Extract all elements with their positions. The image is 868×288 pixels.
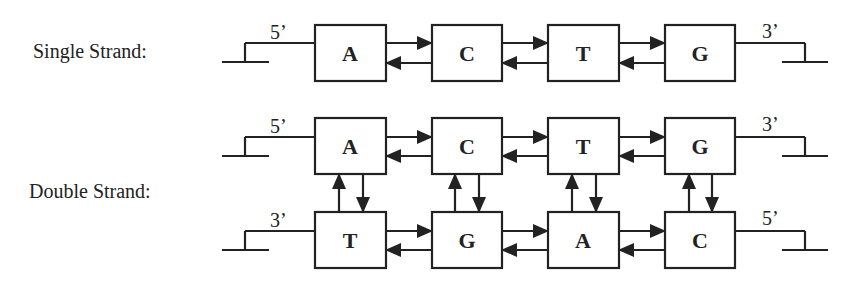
base-box-t: T bbox=[548, 25, 619, 81]
three-prime-label: 3’ bbox=[762, 20, 779, 42]
svg-text:C: C bbox=[459, 134, 475, 159]
base-box-a: A bbox=[315, 25, 386, 81]
svg-text:T: T bbox=[576, 41, 591, 66]
base-box-c: C bbox=[432, 25, 502, 81]
svg-text:T: T bbox=[343, 228, 358, 253]
five-prime-end-bracket: 5’ bbox=[735, 207, 828, 250]
svg-text:T: T bbox=[576, 134, 591, 159]
up-arrow-icon bbox=[339, 174, 689, 212]
base-box-g: G bbox=[665, 118, 735, 174]
three-prime-end-bracket: 3’ bbox=[735, 20, 828, 62]
three-prime-label: 3’ bbox=[270, 209, 287, 231]
base-box-t: T bbox=[315, 212, 386, 268]
five-prime-label: 5’ bbox=[270, 21, 287, 43]
base-box-t: T bbox=[548, 118, 619, 174]
base-box-g: G bbox=[432, 212, 502, 268]
svg-text:G: G bbox=[691, 41, 708, 66]
down-arrow-icon bbox=[363, 174, 712, 212]
svg-text:C: C bbox=[692, 228, 708, 253]
svg-text:A: A bbox=[342, 134, 358, 159]
svg-text:G: G bbox=[691, 134, 708, 159]
base-box-a: A bbox=[548, 212, 619, 268]
base-box-c: C bbox=[432, 118, 502, 174]
double-strand-bottom-row: 3’ T G A C bbox=[222, 207, 828, 268]
base-box-a: A bbox=[315, 118, 386, 174]
svg-text:G: G bbox=[458, 228, 475, 253]
three-prime-end-bracket: 3’ bbox=[735, 113, 828, 156]
five-prime-label: 5’ bbox=[762, 207, 779, 229]
base-box-g: G bbox=[665, 25, 735, 81]
svg-text:A: A bbox=[342, 41, 358, 66]
three-prime-end-bracket: 3’ bbox=[222, 209, 315, 250]
five-prime-label: 5’ bbox=[270, 115, 287, 137]
five-prime-end-bracket: 5’ bbox=[222, 115, 315, 156]
base-box-c: C bbox=[665, 212, 735, 268]
three-prime-label: 3’ bbox=[762, 113, 779, 135]
svg-text:C: C bbox=[459, 41, 475, 66]
double-strand-top-row: 5’ A C T G bbox=[222, 113, 828, 174]
svg-text:A: A bbox=[575, 228, 591, 253]
single-strand-row: 5’ A C T G bbox=[222, 20, 828, 81]
base-pair-arrows bbox=[339, 174, 712, 212]
five-prime-end-bracket: 5’ bbox=[222, 21, 315, 62]
dna-strand-diagram: 5’ A C T G bbox=[0, 0, 868, 288]
